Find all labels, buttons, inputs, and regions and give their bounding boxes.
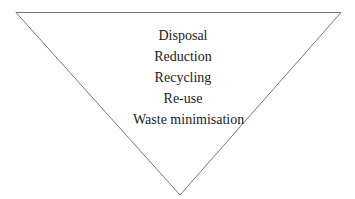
level-label-waste-minimisation: Waste minimisation bbox=[133, 112, 233, 128]
level-label-disposal: Disposal bbox=[133, 28, 233, 44]
level-label-re-use: Re-use bbox=[133, 91, 233, 107]
level-label-recycling: Recycling bbox=[133, 70, 233, 86]
level-label-reduction: Reduction bbox=[133, 49, 233, 65]
hierarchy-labels: Disposal Reduction Recycling Re-use Wast… bbox=[0, 0, 355, 199]
